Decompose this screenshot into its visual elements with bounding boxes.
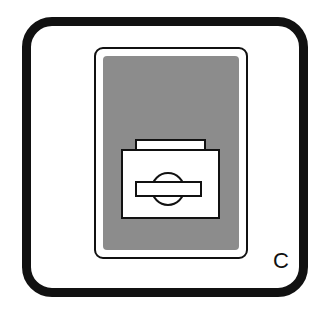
drawer-top-tab — [136, 140, 205, 150]
figure-label: C — [271, 248, 291, 274]
drawer-handle-bar — [136, 182, 201, 196]
